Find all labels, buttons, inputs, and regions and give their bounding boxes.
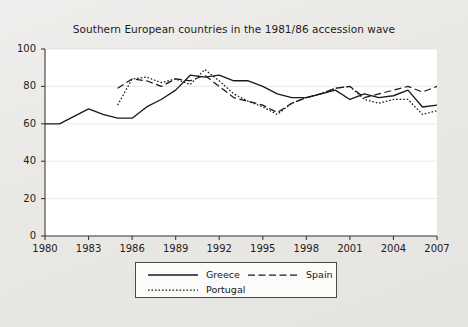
chart-legend: GreeceSpainPortugal bbox=[135, 262, 337, 298]
x-tick-label: 1998 bbox=[286, 243, 326, 254]
x-tick-label: 1983 bbox=[69, 243, 109, 254]
y-tick-label: 40 bbox=[8, 155, 36, 166]
plot-background bbox=[45, 49, 437, 236]
legend-label-portugal: Portugal bbox=[206, 284, 245, 295]
chart-figure: Southern European countries in the 1981/… bbox=[0, 0, 468, 327]
y-tick-label: 60 bbox=[8, 118, 36, 129]
y-tick-label: 80 bbox=[8, 80, 36, 91]
y-tick-label: 100 bbox=[8, 43, 36, 54]
x-tick-label: 1989 bbox=[156, 243, 196, 254]
x-tick-label: 1992 bbox=[199, 243, 239, 254]
x-tick-label: 1980 bbox=[25, 243, 65, 254]
x-tick-label: 2004 bbox=[373, 243, 413, 254]
legend-label-spain: Spain bbox=[306, 269, 333, 280]
x-tick-label: 2007 bbox=[417, 243, 457, 254]
y-tick-label: 0 bbox=[8, 230, 36, 241]
x-tick-label: 2001 bbox=[330, 243, 370, 254]
x-tick-label: 1995 bbox=[243, 243, 283, 254]
x-tick-label: 1986 bbox=[112, 243, 152, 254]
y-tick-label: 20 bbox=[8, 193, 36, 204]
legend-label-greece: Greece bbox=[206, 269, 240, 280]
